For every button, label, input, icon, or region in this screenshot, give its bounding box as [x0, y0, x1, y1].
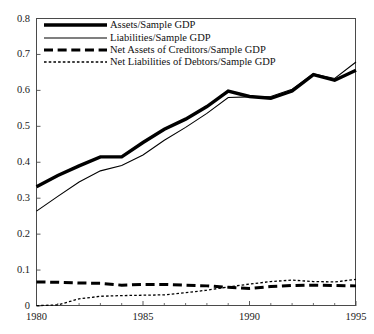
legend-line-sample-icon — [44, 44, 108, 56]
y-tick-label: 0.1 — [2, 264, 30, 275]
legend-item-label: Net Assets of Creditors/Sample GDP — [108, 44, 266, 56]
legend-item-label: Assets/Sample GDP — [108, 19, 195, 31]
legend-item: Net Assets of Creditors/Sample GDP — [44, 44, 274, 56]
x-tick-label: 1980 — [17, 311, 57, 322]
y-tick-label: 0.3 — [2, 192, 30, 203]
x-tick-label: 1990 — [230, 311, 270, 322]
y-tick-label: 0.8 — [2, 13, 30, 24]
y-tick-label: 0.7 — [2, 48, 30, 59]
legend-item-label: Net Liabilities of Debtors/Sample GDP — [108, 56, 276, 68]
y-tick-label: 0.6 — [2, 84, 30, 95]
legend-item: Net Liabilities of Debtors/Sample GDP — [44, 56, 274, 68]
legend-line-sample-icon — [44, 32, 108, 44]
chart-legend: Assets/Sample GDPLiabilities/Sample GDPN… — [44, 19, 274, 69]
legend-item: Assets/Sample GDP — [44, 19, 274, 31]
legend-item: Liabilities/Sample GDP — [44, 31, 274, 43]
legend-item-label: Liabilities/Sample GDP — [108, 32, 211, 44]
x-tick-label: 1995 — [336, 311, 374, 322]
y-tick-label: 0.2 — [2, 228, 30, 239]
legend-line-sample-icon — [44, 19, 108, 31]
y-tick-label: 0 — [2, 300, 30, 311]
chart-container: 00.10.20.30.40.50.60.70.8 19801985199019… — [0, 0, 374, 334]
legend-line-sample-icon — [44, 56, 108, 68]
y-tick-label: 0.5 — [2, 120, 30, 131]
y-tick-label: 0.4 — [2, 156, 30, 167]
x-tick-label: 1985 — [123, 311, 163, 322]
